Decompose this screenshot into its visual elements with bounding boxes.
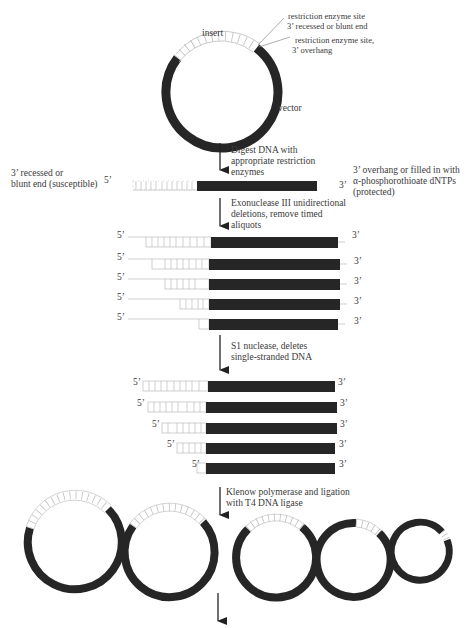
s1-row4-five: 5’ — [167, 439, 175, 449]
s1-row1-three: 3’ — [338, 377, 346, 387]
s1-row5-three: 3’ — [339, 459, 347, 469]
site1-pointer — [258, 18, 284, 45]
s1-row3-five: 5’ — [152, 419, 160, 429]
step4-line1: Klenow polymerase and ligation — [226, 487, 350, 498]
step1-line3: enzymes — [231, 167, 264, 178]
s1-row4-three: 3’ — [339, 439, 347, 449]
step3-line1: S1 nuclease, deletes — [231, 341, 307, 352]
plasmid-original — [166, 18, 290, 148]
s1-vector-bars — [206, 381, 337, 474]
step2-line2: deletions, remove timed — [231, 209, 323, 220]
right-end-line1: 3’ overhang or filled in with — [353, 165, 460, 176]
linear-three-prime: 3’ — [339, 180, 347, 190]
right-end-line3: (protected) — [353, 187, 395, 198]
left-end-line2: blunt end (susceptible) — [11, 179, 98, 190]
site1-label-line2: 3’ recessed or blunt end — [287, 22, 368, 32]
exo-row2-five: 5’ — [117, 252, 125, 262]
s1-row3-three: 3’ — [340, 419, 348, 429]
vector-arc — [166, 48, 278, 148]
exo-row2-three: 3’ — [354, 256, 362, 266]
right-end-line2: α-phosphorothioate dNTPs — [353, 176, 456, 187]
s1-row2-five: 5’ — [137, 398, 145, 408]
vector-label: vector — [278, 103, 302, 114]
exo-row1-three: 3’ — [352, 230, 360, 240]
step3-line2: single-stranded DNA — [231, 352, 312, 363]
step2-line3: aliquots — [231, 220, 261, 231]
exo-row5-five: 5’ — [117, 312, 125, 322]
exo-row3-five: 5’ — [117, 272, 125, 282]
linear-five-prime: 5’ — [104, 175, 112, 185]
exo-row5-three: 3’ — [354, 316, 362, 326]
exo-row4-three: 3’ — [354, 296, 362, 306]
step2-line1: Exonuclease III unidirectional — [231, 198, 346, 209]
diagram-canvas — [0, 0, 472, 628]
linear-dna — [133, 181, 317, 191]
s1-row2-three: 3’ — [340, 398, 348, 408]
insert-label: insert — [202, 28, 223, 39]
exo-row4-five: 5’ — [117, 292, 125, 302]
step4-line2: with T4 DNA ligase — [226, 498, 303, 509]
left-end-line1: 3’ recessed or — [11, 168, 63, 179]
step1-line2: appropriate restriction — [231, 156, 315, 167]
exo-row3-three: 3’ — [354, 276, 362, 286]
s1-row1-five: 5’ — [133, 377, 141, 387]
step1-line1: Digest DNA with — [231, 145, 298, 156]
site2-pointer — [259, 37, 290, 47]
s1-row5-five: 5’ — [192, 459, 200, 469]
site2-label-line2: 3’ overhang — [292, 46, 332, 56]
exo-vector-bars — [209, 237, 340, 330]
exo-row1-five: 5’ — [117, 230, 125, 240]
